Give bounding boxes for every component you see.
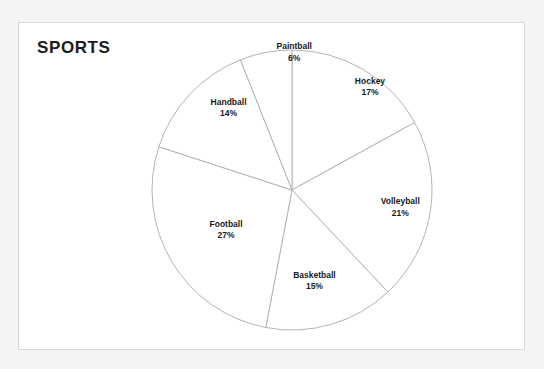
slice-label-volleyball: Volleyball21% (381, 196, 420, 219)
pie-chart (19, 23, 526, 351)
slice-label-value: 15% (293, 281, 336, 292)
slice-label-name: Football (210, 219, 243, 230)
pie-slices (152, 50, 432, 330)
slice-label-paintball: Paintball6% (277, 41, 312, 64)
slice-label-value: 27% (210, 230, 243, 241)
slice-label-name: Hockey (355, 75, 385, 86)
slice-label-value: 6% (277, 52, 312, 63)
chart-frame: SPORTS Hockey17%Volleyball21%Basketball1… (18, 22, 525, 350)
page-canvas: SPORTS Hockey17%Volleyball21%Basketball1… (0, 0, 544, 369)
slice-label-handball: Handball14% (211, 96, 247, 119)
slice-label-name: Basketball (293, 269, 336, 280)
slice-label-football: Football27% (210, 219, 243, 242)
slice-label-value: 17% (355, 87, 385, 98)
slice-label-value: 21% (381, 207, 420, 218)
slice-label-value: 14% (211, 108, 247, 119)
slice-label-hockey: Hockey17% (355, 75, 385, 98)
slice-label-basketball: Basketball15% (293, 269, 336, 292)
slice-label-name: Handball (211, 96, 247, 107)
slice-label-name: Paintball (277, 41, 312, 52)
slice-label-name: Volleyball (381, 196, 420, 207)
